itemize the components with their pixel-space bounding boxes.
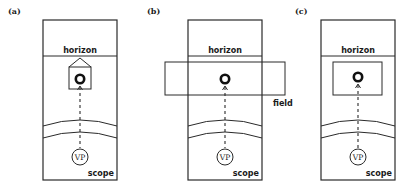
ring-target-icon	[221, 75, 229, 83]
horizon-label-b: horizon	[208, 46, 242, 55]
horizon-label-a: horizon	[63, 46, 97, 55]
panel-a-label: (a)	[8, 6, 21, 16]
vp-label-c: VP	[352, 153, 363, 162]
panel-c: (c) horizon VP scope	[295, 6, 395, 180]
panel-b: (b) horizon field VP scope	[147, 6, 293, 180]
field-rect-c	[333, 62, 382, 95]
vp-label-a: VP	[74, 153, 85, 162]
ring-target-icon	[76, 75, 84, 83]
field-label-b: field	[273, 99, 293, 108]
panel-b-label: (b)	[147, 6, 160, 16]
panel-c-label: (c)	[295, 6, 308, 16]
scope-label-b: scope	[233, 169, 260, 178]
ring-target-icon	[354, 73, 362, 81]
panel-a: (a) horizon VP scope	[8, 6, 117, 180]
vp-label-b: VP	[219, 153, 230, 162]
field-rect-b	[165, 62, 285, 95]
scope-label-a: scope	[88, 169, 115, 178]
figure-diagram: (a) horizon VP scope (b) horizon field V…	[0, 0, 400, 193]
scope-label-c: scope	[366, 169, 393, 178]
horizon-label-c: horizon	[341, 46, 375, 55]
